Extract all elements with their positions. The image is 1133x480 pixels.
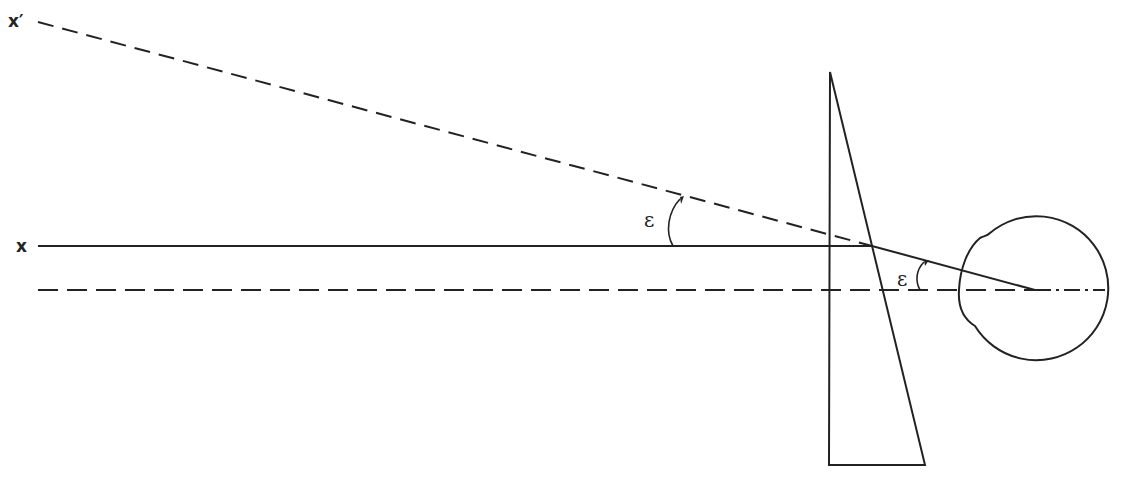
angle-arc-2 (917, 262, 924, 290)
epsilon-label-1: ε (644, 208, 654, 232)
label-x: x (16, 236, 27, 256)
arrow-icon (924, 260, 929, 266)
prism-diagram: x′ x ε ε (0, 0, 1133, 480)
prism (829, 72, 925, 465)
angle-arc-1 (669, 199, 680, 246)
epsilon-label-2: ε (897, 267, 907, 291)
label-x-prime: x′ (8, 11, 24, 31)
arrow-icon (680, 196, 684, 204)
eye (959, 216, 1108, 360)
apparent-ray-x-prime (38, 22, 872, 246)
